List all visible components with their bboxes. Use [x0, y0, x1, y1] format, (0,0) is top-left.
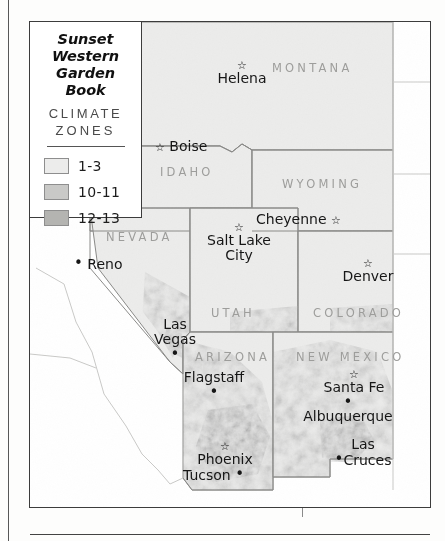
city-label-boise: Boise [169, 138, 207, 154]
city-label-phoenix: Phoenix [197, 451, 253, 467]
legend-rows: 1-3 10-11 12-13 [30, 147, 141, 228]
city-label-albuquerque: Albuquerque [303, 408, 392, 424]
city-dot-icon: • [143, 350, 207, 359]
state-label-utah: UTAH [211, 306, 255, 320]
city-label-santa-fe: Santa Fe [324, 379, 385, 395]
city-label-salt-lake-city-line-1: Salt Lake [207, 232, 271, 248]
legend-label-zone-1-3: 1-3 [78, 158, 102, 174]
city-dot-icon: • [172, 388, 256, 397]
legend-item-zone-12-13[interactable]: 12-13 [44, 207, 141, 228]
legend-title-line-2: Western [34, 48, 137, 65]
state-label-colorado: COLORADO [313, 306, 404, 320]
state-label-nevada: NEVADA [106, 230, 173, 244]
city-albuquerque[interactable]: • Albuquerque [289, 398, 407, 424]
city-santa-fe[interactable]: ☆ Santa Fe [311, 369, 397, 395]
legend-label-zone-12-13: 12-13 [78, 210, 120, 226]
legend-heading-line-1: CLIMATE [30, 105, 141, 122]
city-label-las-cruces-line-1: Las [351, 436, 375, 452]
city-label-salt-lake-city-line-2: City [225, 247, 252, 263]
city-label-las-cruces-line-2: Cruces [343, 452, 391, 468]
legend-title-line-1: Sunset [34, 31, 137, 48]
city-reno[interactable]: • Reno [74, 256, 122, 272]
city-las-cruces[interactable]: Las •Cruces [320, 437, 406, 468]
state-label-montana: MONTANA [272, 61, 352, 75]
legend-title: Sunset Western Garden Book [30, 28, 141, 99]
city-label-tucson: Tucson [183, 467, 231, 483]
city-phoenix[interactable]: ☆ Phoenix [185, 441, 265, 467]
legend-label-zone-10-11: 10-11 [78, 184, 120, 200]
city-label-helena: Helena [217, 70, 266, 86]
state-label-idaho: IDAHO [160, 165, 214, 179]
legend-item-zone-1-3[interactable]: 1-3 [44, 155, 141, 176]
state-label-wyoming: WYOMING [282, 177, 362, 191]
capital-star-icon: ☆ [155, 141, 165, 154]
legend-title-line-3: Garden Book [34, 65, 137, 99]
city-dot-icon: • [74, 254, 83, 272]
legend-heading-line-2: ZONES [30, 122, 141, 139]
city-boise[interactable]: ☆ Boise [155, 139, 207, 155]
city-tucson[interactable]: Tucson • [183, 467, 244, 483]
capital-star-icon: ☆ [331, 214, 341, 227]
city-label-las-vegas-line-1: Las [163, 316, 187, 332]
city-denver[interactable]: ☆ Denver [330, 258, 406, 284]
zone-10-11-swatch-icon [44, 184, 69, 200]
page-left-margin-rule [8, 0, 9, 541]
page-bottom-rule [30, 534, 430, 535]
city-salt-lake-city[interactable]: ☆ Salt Lake City [191, 222, 287, 263]
city-flagstaff[interactable]: Flagstaff • [172, 370, 256, 397]
zone-1-3-swatch-icon [44, 158, 69, 174]
city-dot-icon: • [289, 398, 407, 407]
city-helena[interactable]: ☆ Helena [204, 60, 280, 86]
page-canvas: Sunset Western Garden Book CLIMATE ZONES… [0, 0, 445, 541]
map-frame: Sunset Western Garden Book CLIMATE ZONES… [29, 21, 431, 508]
city-las-vegas[interactable]: Las Vegas • [143, 317, 207, 359]
state-label-new-mexico: NEW MEXICO [296, 350, 404, 364]
city-dot-icon: • [235, 465, 244, 483]
legend-heading: CLIMATE ZONES [30, 99, 141, 139]
legend-item-zone-10-11[interactable]: 10-11 [44, 181, 141, 202]
city-label-reno: Reno [87, 256, 122, 272]
zone-12-13-swatch-icon [44, 210, 69, 226]
map-legend: Sunset Western Garden Book CLIMATE ZONES… [30, 22, 142, 218]
city-label-denver: Denver [343, 268, 394, 284]
